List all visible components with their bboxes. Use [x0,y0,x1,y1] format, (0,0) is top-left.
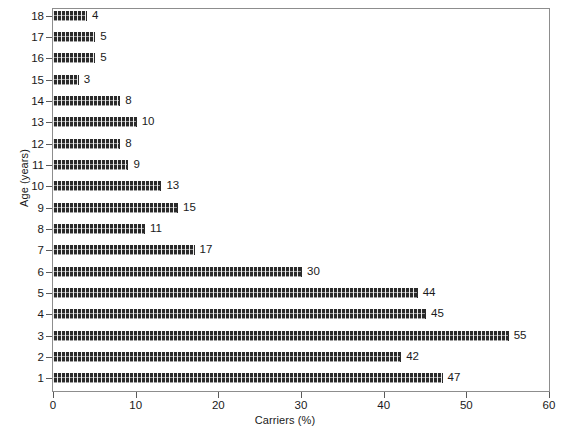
x-axis-tick-label: 40 [364,399,404,411]
bar [53,11,87,21]
y-axis-tick-label: 10 [18,180,44,192]
bar [53,117,137,127]
bar [53,75,79,85]
bar-value-label: 15 [183,201,196,213]
bar-value-label: 10 [142,115,155,127]
bar [53,224,145,234]
x-axis-tick [466,392,467,398]
y-axis-tick-label: 13 [18,116,44,128]
y-axis-tick-label: 14 [18,95,44,107]
x-axis-tick [218,392,219,398]
y-axis-tick-label: 8 [18,223,44,235]
y-axis-tick [46,16,52,17]
bar [53,160,128,170]
y-axis-tick [46,336,52,337]
bar-value-label: 44 [423,286,436,298]
bar-value-label: 8 [125,94,131,106]
x-axis-tick-label: 60 [529,399,569,411]
y-axis-tick-label: 12 [18,138,44,150]
bar-value-label: 5 [100,30,106,42]
bar-value-label: 47 [448,371,461,383]
bar [53,53,95,63]
bar-value-label: 45 [431,307,444,319]
bar [53,32,95,42]
x-axis-tick [53,392,54,398]
bar [53,181,161,191]
bar-value-label: 8 [125,137,131,149]
y-axis-tick [46,58,52,59]
bar-value-label: 3 [84,73,90,85]
bar-value-label: 4 [92,9,98,21]
bar-value-label: 42 [406,350,419,362]
bar [53,139,120,149]
x-axis-tick [301,392,302,398]
x-axis-tick-label: 30 [281,399,321,411]
x-axis-title: Carriers (%) [0,414,570,426]
y-axis-tick [46,250,52,251]
x-axis-tick [549,392,550,398]
y-axis-tick [46,122,52,123]
y-axis-tick-label: 7 [18,244,44,256]
y-axis-tick-label: 2 [18,351,44,363]
y-axis-tick-label: 6 [18,266,44,278]
bar-value-label: 17 [200,243,213,255]
y-axis-tick-label: 15 [18,74,44,86]
bar [53,203,178,213]
y-axis-tick-label: 18 [18,10,44,22]
bar-value-label: 55 [514,329,527,341]
bar-value-label: 11 [150,222,162,234]
bar [53,373,443,383]
y-axis-tick-label: 17 [18,31,44,43]
bar-value-label: 5 [100,51,106,63]
y-axis-title: Age (years) [18,118,30,238]
bar [53,96,120,106]
y-axis-tick [46,229,52,230]
y-axis-tick-label: 3 [18,330,44,342]
y-axis-tick [46,272,52,273]
y-axis-tick-label: 11 [18,159,44,171]
y-axis-tick [46,208,52,209]
y-axis-tick [46,80,52,81]
y-axis-tick [46,314,52,315]
bar [53,331,509,341]
bar-value-label: 9 [133,158,139,170]
y-axis-tick [46,378,52,379]
bar [53,245,195,255]
y-axis-tick [46,293,52,294]
x-axis-tick [384,392,385,398]
y-axis-tick-label: 1 [18,372,44,384]
x-axis-tick [136,392,137,398]
x-axis-tick-label: 10 [116,399,156,411]
y-axis-tick [46,101,52,102]
bar [53,352,401,362]
x-axis-tick-label: 0 [33,399,73,411]
y-axis-tick-label: 5 [18,287,44,299]
y-axis-tick [46,144,52,145]
y-axis-tick-label: 9 [18,202,44,214]
bar-chart: Age (years) 181716151413121110987654321 … [0,0,570,435]
bar-value-label: 30 [307,265,320,277]
bar [53,288,418,298]
y-axis-tick [46,357,52,358]
y-axis-tick [46,37,52,38]
bar [53,267,302,277]
x-axis-tick-label: 50 [446,399,486,411]
y-axis-tick [46,186,52,187]
bar [53,309,426,319]
y-axis-tick-label: 16 [18,52,44,64]
x-axis-tick-label: 20 [198,399,238,411]
y-axis-tick [46,165,52,166]
y-axis-tick-label: 4 [18,308,44,320]
bar-value-label: 13 [166,179,179,191]
